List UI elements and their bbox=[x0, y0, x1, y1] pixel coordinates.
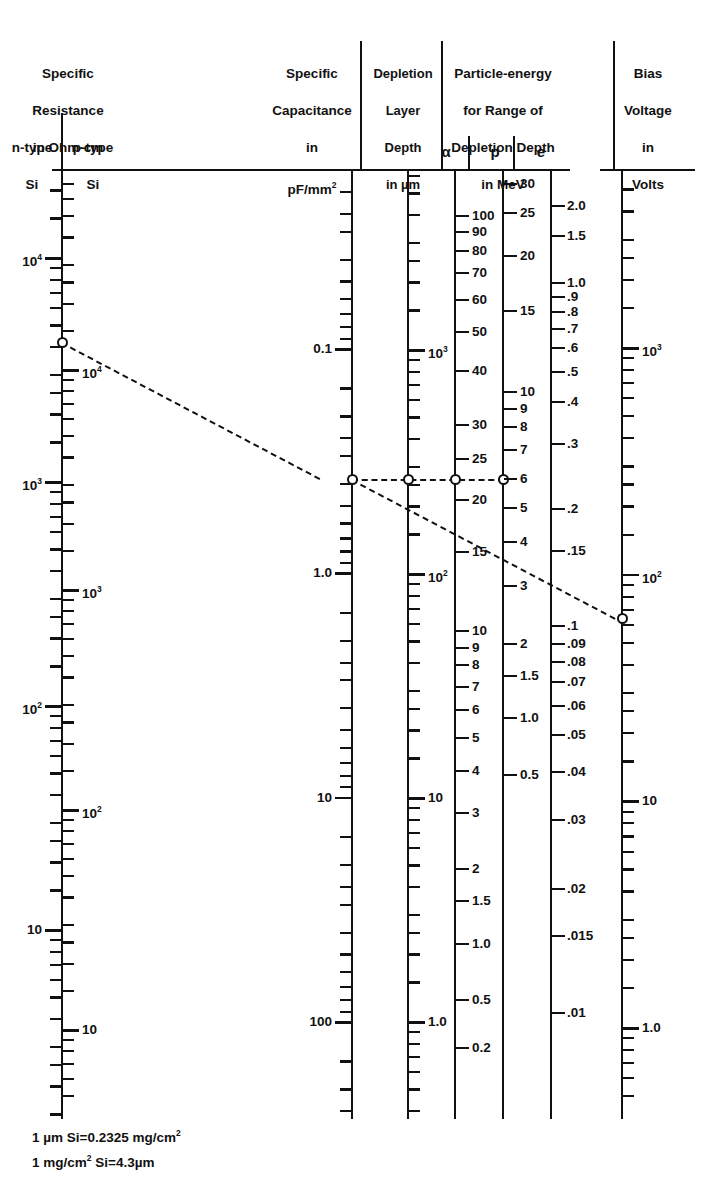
axis-tick bbox=[456, 231, 469, 233]
axis-tick bbox=[552, 235, 565, 237]
axis-tick bbox=[50, 1064, 61, 1066]
axis-tick bbox=[623, 642, 634, 644]
axis-tick bbox=[50, 1018, 61, 1020]
axis-tick bbox=[340, 338, 351, 340]
header-column-alpha: α bbox=[426, 143, 466, 160]
axis-tick bbox=[623, 1027, 639, 1030]
axis-tick bbox=[409, 192, 420, 194]
axis-tick bbox=[623, 534, 634, 536]
axis-tick bbox=[50, 951, 61, 953]
axis-tick-label: 7 bbox=[472, 680, 480, 694]
axis-tick bbox=[623, 868, 634, 870]
axis-tick bbox=[50, 772, 61, 774]
axis-tick bbox=[63, 655, 74, 657]
axis-tick bbox=[623, 483, 634, 485]
axis-tick bbox=[504, 774, 517, 776]
axis-tick-label: .7 bbox=[567, 322, 578, 336]
axis-tick bbox=[50, 979, 61, 981]
axis-tick bbox=[409, 623, 420, 625]
axis-tick bbox=[623, 1095, 634, 1097]
axis-tick-label: .03 bbox=[567, 813, 586, 827]
axis-tick bbox=[409, 583, 420, 585]
axis-tick bbox=[45, 705, 61, 708]
axis-tick-label: 9 bbox=[472, 641, 480, 655]
axis-tick bbox=[552, 282, 565, 284]
axis-tick bbox=[504, 426, 517, 428]
axis-tick-label: 10 bbox=[242, 791, 332, 805]
axis-tick bbox=[623, 465, 634, 467]
index-line-horizontal bbox=[352, 479, 504, 481]
axis-tick bbox=[63, 215, 74, 217]
axis-tick bbox=[504, 717, 517, 719]
axis-tick bbox=[63, 523, 74, 525]
footnote-line-1: 1 µm Si=0.2325 mg/cm2 bbox=[32, 1123, 181, 1148]
axis-tick bbox=[409, 595, 420, 597]
axis-tick-label: 20 bbox=[472, 493, 487, 507]
axis-tick bbox=[409, 797, 425, 800]
axis-tick bbox=[456, 709, 469, 711]
axis-tick bbox=[63, 809, 79, 812]
axis-tick bbox=[340, 786, 351, 788]
axis-tick bbox=[409, 484, 420, 486]
axis-tick bbox=[623, 505, 634, 507]
axis-tick bbox=[50, 279, 61, 281]
axis-tick bbox=[552, 443, 565, 445]
axis-tick bbox=[552, 371, 565, 373]
axis-tick-label: 1.0 bbox=[567, 276, 586, 290]
axis-tick bbox=[409, 847, 420, 849]
axis-tick bbox=[623, 369, 634, 371]
axis-tick bbox=[409, 914, 420, 916]
axis-tick bbox=[63, 403, 74, 405]
axis-tick bbox=[623, 584, 634, 586]
marker-proton[interactable] bbox=[450, 474, 461, 485]
axis-tick bbox=[456, 299, 469, 301]
axis-tick-label: .015 bbox=[567, 929, 593, 943]
axis-tick bbox=[409, 281, 420, 283]
axis-tick-label: 1.0 bbox=[428, 1015, 447, 1029]
axis-tick bbox=[340, 932, 351, 934]
axis-tick bbox=[50, 794, 61, 796]
axis-tick bbox=[623, 596, 634, 598]
axis-tick-label: 10 bbox=[0, 923, 42, 937]
axis-tick bbox=[50, 413, 61, 415]
header-line: for Range of bbox=[418, 102, 588, 121]
axis-tick bbox=[45, 257, 61, 260]
axis-tick bbox=[456, 630, 469, 632]
axis-tick bbox=[340, 280, 351, 282]
axis-tick-label: 103 bbox=[0, 475, 42, 492]
axis-tick bbox=[409, 832, 420, 834]
axis-tick bbox=[340, 640, 351, 642]
axis-tick bbox=[50, 491, 61, 493]
axis-tick bbox=[340, 387, 351, 389]
axis-tick-label: 1.5 bbox=[520, 669, 539, 683]
axis-tick bbox=[340, 775, 351, 777]
axis-tick-label: .07 bbox=[567, 675, 586, 689]
axis-tick bbox=[456, 215, 469, 217]
axis-tick bbox=[63, 830, 74, 832]
top-rule-left bbox=[52, 169, 570, 171]
axis-tick-label: 103 bbox=[428, 343, 448, 360]
axis-tick-label: 25 bbox=[472, 452, 487, 466]
axis-tick bbox=[63, 599, 74, 601]
footnote-line-2: 1 mg/cm2 Si=4.3µm bbox=[32, 1148, 181, 1173]
header-divider-bias bbox=[613, 41, 615, 169]
header-divider-resistance bbox=[61, 113, 63, 169]
marker-bias[interactable] bbox=[617, 613, 628, 624]
axis-tick bbox=[340, 231, 351, 233]
axis-tick bbox=[50, 1046, 61, 1048]
axis-tick-label: .04 bbox=[567, 765, 586, 779]
axis-tick bbox=[50, 822, 61, 824]
axis-tick-label: 5 bbox=[520, 501, 528, 515]
axis-tick bbox=[63, 456, 74, 458]
axis-tick bbox=[623, 664, 634, 666]
header-line: Voltage bbox=[603, 102, 693, 121]
axis-tick bbox=[340, 762, 351, 764]
axis-tick bbox=[552, 681, 565, 683]
axis-tick bbox=[552, 508, 565, 510]
axis-tick-label: 9 bbox=[520, 402, 528, 416]
top-rule-right bbox=[600, 169, 695, 171]
header-divider-capacitance bbox=[360, 41, 362, 169]
axis-tick-label: .1 bbox=[567, 619, 578, 633]
axis-tick-label: .06 bbox=[567, 699, 586, 713]
axis-tick bbox=[50, 217, 61, 219]
